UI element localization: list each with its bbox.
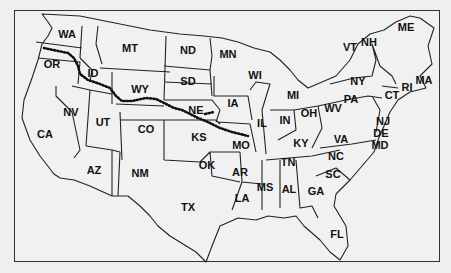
state-label-mn: MN xyxy=(219,48,236,60)
state-label-mo: MO xyxy=(232,139,250,151)
state-label-tn: TN xyxy=(281,156,296,168)
state-label-nh: NH xyxy=(361,36,377,48)
state-label-ia: IA xyxy=(228,97,239,109)
state-label-sd: SD xyxy=(180,75,195,87)
state-label-nm: NM xyxy=(131,167,148,179)
state-label-ga: GA xyxy=(308,185,325,197)
state-label-de: DE xyxy=(373,127,388,139)
state-label-sc: SC xyxy=(325,168,340,180)
state-label-co: CO xyxy=(138,123,155,135)
state-label-nv: NV xyxy=(63,106,78,118)
state-label-vt: VT xyxy=(343,41,357,53)
state-label-ky: KY xyxy=(293,137,308,149)
state-label-wi: WI xyxy=(248,69,261,81)
state-label-fl: FL xyxy=(330,228,343,240)
state-label-al: AL xyxy=(282,183,297,195)
state-label-ny: NY xyxy=(350,75,365,87)
state-label-id: ID xyxy=(88,67,99,79)
trail-branch xyxy=(205,112,214,114)
state-label-la: LA xyxy=(235,192,250,204)
state-label-pa: PA xyxy=(344,93,358,105)
state-label-ne: NE xyxy=(188,104,203,116)
state-label-ar: AR xyxy=(232,166,248,178)
state-label-md: MD xyxy=(371,139,388,151)
state-label-ri: RI xyxy=(402,81,413,93)
state-label-ms: MS xyxy=(257,181,274,193)
state-label-oh: OH xyxy=(301,107,318,119)
state-label-il: IL xyxy=(257,117,267,129)
state-label-ct: CT xyxy=(385,89,400,101)
state-label-mt: MT xyxy=(122,42,138,54)
state-label-ok: OK xyxy=(199,159,216,171)
state-label-wa: WA xyxy=(58,28,76,40)
state-label-va: VA xyxy=(334,133,348,145)
state-label-or: OR xyxy=(44,58,61,70)
state-label-ks: KS xyxy=(191,131,206,143)
state-label-wy: WY xyxy=(131,83,149,95)
state-label-ma: MA xyxy=(415,74,432,86)
state-label-az: AZ xyxy=(87,164,102,176)
state-label-nj: NJ xyxy=(376,115,390,127)
state-label-nc: NC xyxy=(328,150,344,162)
state-label-in: IN xyxy=(280,114,291,126)
state-label-nd: ND xyxy=(180,44,196,56)
state-label-ut: UT xyxy=(96,116,111,128)
state-label-wv: WV xyxy=(324,102,342,114)
state-label-tx: TX xyxy=(181,201,195,213)
state-label-me: ME xyxy=(398,21,415,33)
state-borders xyxy=(36,26,398,218)
state-label-mi: MI xyxy=(287,89,299,101)
state-label-ca: CA xyxy=(37,128,53,140)
